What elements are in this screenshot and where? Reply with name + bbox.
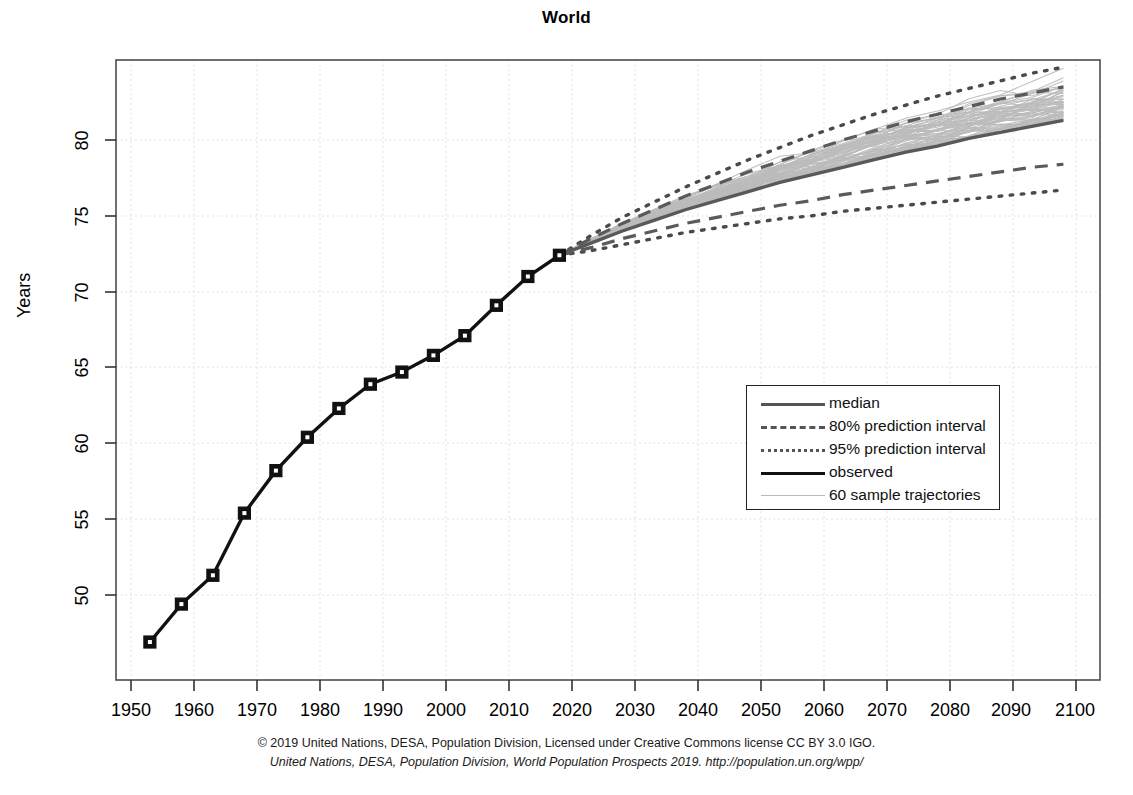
legend-label: 80% prediction interval	[829, 417, 986, 435]
x-tick-label: 2080	[915, 700, 985, 721]
legend-item-pi95[interactable]: 95% prediction interval	[747, 436, 999, 461]
chart-figure: World Years	[0, 0, 1133, 795]
x-tick-label: 1950	[96, 700, 166, 721]
observed-data-point	[553, 249, 565, 261]
y-tick-label: 80	[72, 121, 93, 161]
y-axis-label: Years	[14, 273, 35, 318]
observed-data-point	[522, 271, 534, 283]
legend-key-dotted-icon	[757, 438, 829, 460]
observed-data-point	[270, 465, 282, 477]
observed-data-point	[175, 598, 187, 610]
legend-label: 95% prediction interval	[829, 440, 986, 458]
legend-label: 60 sample trajectories	[829, 486, 981, 504]
chart-title: World	[0, 8, 1133, 28]
observed-data-point	[207, 569, 219, 581]
legend-item-pi80[interactable]: 80% prediction interval	[747, 413, 999, 438]
observed-data-point	[144, 636, 156, 648]
gridlines	[116, 60, 1100, 680]
y-tick-label: 60	[72, 424, 93, 464]
y-tick-label: 75	[72, 197, 93, 237]
x-tick-label: 1970	[222, 700, 292, 721]
x-tick-label: 2000	[411, 700, 481, 721]
observed-data-point	[396, 366, 408, 378]
observed-data-point	[459, 330, 471, 342]
x-tick-label: 2020	[537, 700, 607, 721]
observed-data-point	[333, 402, 345, 414]
legend-label: median	[829, 394, 880, 412]
legend-item-observed[interactable]: observed	[747, 459, 999, 484]
caption-source: United Nations, DESA, Population Divisio…	[0, 755, 1133, 769]
observed-data-point	[490, 299, 502, 311]
x-tick-label: 1980	[285, 700, 355, 721]
x-tick-label: 2090	[976, 700, 1046, 721]
x-tick-label: 2030	[600, 700, 670, 721]
legend-key-trajectory-icon	[757, 484, 829, 506]
observed-data-point	[238, 507, 250, 519]
caption-copyright: © 2019 United Nations, DESA, Population …	[0, 736, 1133, 750]
x-tick-label: 2070	[852, 700, 922, 721]
observed-data-point	[364, 378, 376, 390]
sample-trajectory	[559, 102, 1063, 255]
x-tick-label: 2010	[474, 700, 544, 721]
x-axis-ticks	[131, 680, 1076, 691]
legend-key-dashed-icon	[757, 415, 829, 437]
x-tick-label: 1960	[159, 700, 229, 721]
x-tick-label: 2100	[1040, 700, 1110, 721]
x-tick-label: 2050	[726, 700, 796, 721]
x-tick-label: 2060	[789, 700, 859, 721]
y-axis-ticks	[105, 140, 116, 595]
x-tick-label: 1990	[348, 700, 418, 721]
y-tick-label: 50	[72, 576, 93, 616]
plot-frame	[116, 60, 1100, 680]
legend-key-median-icon	[757, 392, 829, 414]
observed-line	[144, 249, 566, 648]
observed-data-point	[301, 431, 313, 443]
x-tick-label: 2040	[663, 700, 733, 721]
legend-key-observed-icon	[757, 461, 829, 483]
y-tick-label: 55	[72, 500, 93, 540]
observed-data-point	[427, 349, 439, 361]
y-tick-label: 70	[72, 273, 93, 313]
chart-legend: median 80% prediction interval 95% predi…	[746, 385, 1000, 510]
y-tick-label: 65	[72, 348, 93, 388]
legend-item-median[interactable]: median	[747, 390, 999, 415]
legend-label: observed	[829, 463, 893, 481]
legend-item-trajectories[interactable]: 60 sample trajectories	[747, 482, 999, 507]
observed-series-line	[150, 255, 560, 642]
